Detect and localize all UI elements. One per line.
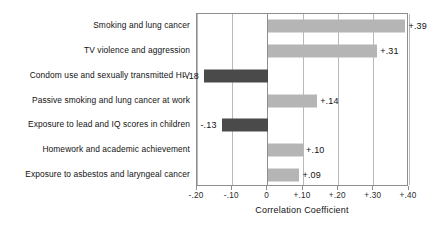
x-axis-tick-label: -.10 [224,190,239,201]
plot-area: +.39+.31-.18+.14-.13+.10+.09 [196,13,408,186]
bar-value-label: -.13 [200,120,216,130]
x-axis-tick-label: +.30 [364,190,381,201]
bar [268,20,406,33]
bar [268,143,303,156]
bar [268,94,317,107]
x-axis-title: Correlation Coefficient [196,205,408,216]
bar [204,69,268,82]
x-axis-tick-label: +.10 [294,190,311,201]
bar [268,45,378,58]
x-axis-tick-label: +.20 [329,190,346,201]
bar-value-label: -.18 [183,71,199,81]
x-axis-tick-label: +.40 [400,190,417,201]
x-axis-tick-label: -.20 [189,190,204,201]
bar-value-label: +.39 [408,21,427,31]
bar-value-label: +.14 [320,96,339,106]
bar [268,168,300,181]
category-label-column: Smoking and lung cancerTV violence and a… [0,13,190,186]
category-label: Exposure to lead and IQ scores in childr… [0,119,190,129]
category-label: Homework and academic achievement [0,144,190,154]
category-label: TV violence and aggression [0,45,190,55]
x-axis-tick-label: 0 [264,190,269,201]
category-label: Smoking and lung cancer [0,20,190,30]
gridline [197,14,198,185]
x-axis: -.20-.100+.10+.20+.30+.40 [196,186,408,202]
bar-value-label: +.10 [306,145,325,155]
category-label: Passive smoking and lung cancer at work [0,95,190,105]
category-label: Condom use and sexually transmitted HIV [0,70,190,80]
bar-value-label: +.31 [380,46,399,56]
gridline [232,14,233,185]
gridline [409,14,410,185]
bar [222,119,268,132]
gridline [373,14,374,185]
category-label: Exposure to asbestos and laryngeal cance… [0,169,190,179]
bar-value-label: +.09 [302,170,321,180]
